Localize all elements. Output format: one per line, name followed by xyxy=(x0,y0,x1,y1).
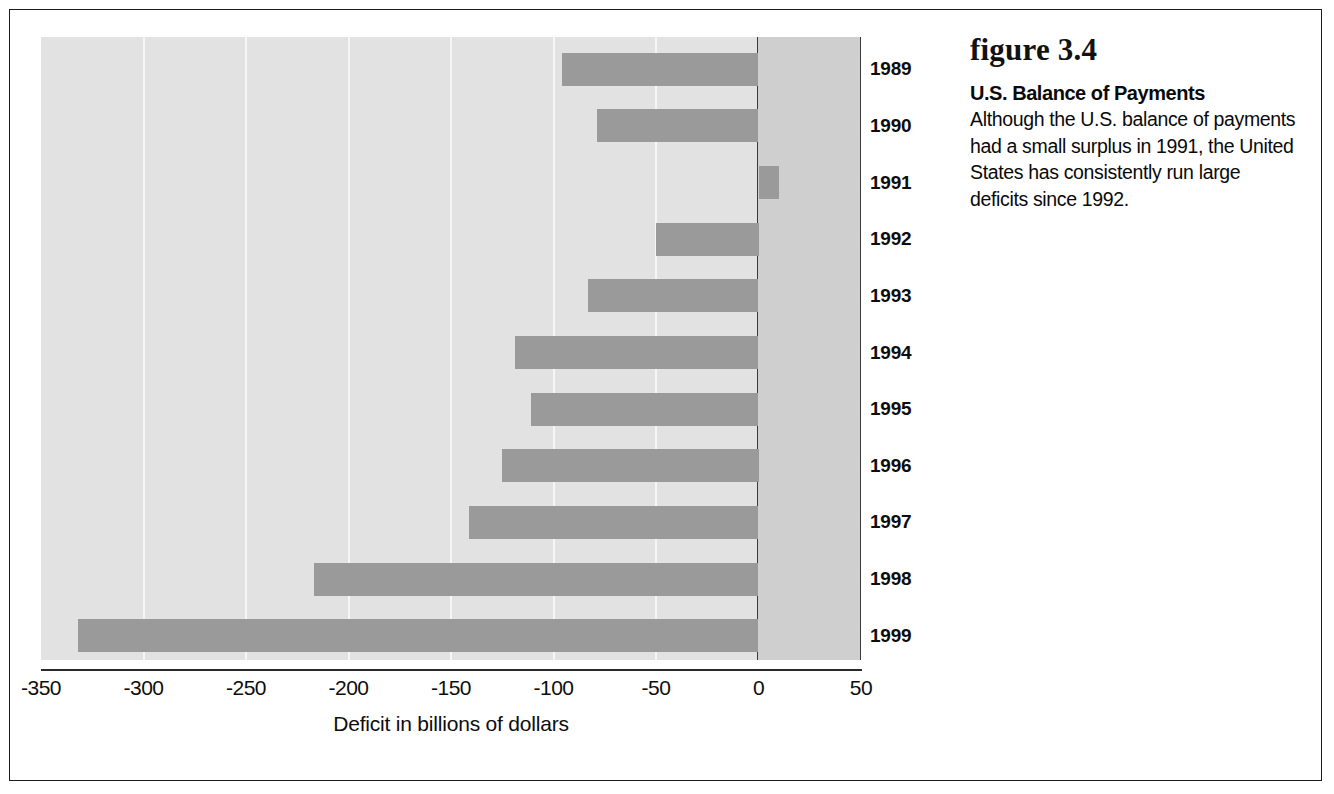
x-axis-title: Deficit in billions of dollars xyxy=(41,712,861,736)
figure-caption-title: U.S. Balance of Payments xyxy=(970,82,1300,105)
bar-shadow xyxy=(307,570,752,603)
x-tick-50: 50 xyxy=(850,676,872,700)
plot-area xyxy=(41,37,861,660)
category-label-1993: 1993 xyxy=(870,285,911,307)
positive-value-zone xyxy=(757,37,861,660)
bar xyxy=(515,336,759,369)
bar-shadow xyxy=(581,286,751,319)
bar-shadow xyxy=(508,343,752,376)
bar xyxy=(469,506,758,539)
category-label-1990: 1990 xyxy=(870,115,911,137)
gridline xyxy=(143,37,145,660)
figure-caption-column: figure 3.4 U.S. Balance of Payments Alth… xyxy=(970,32,1300,212)
bar xyxy=(588,279,758,312)
x-tick--200: -200 xyxy=(328,676,368,700)
bar xyxy=(759,166,780,199)
x-tick--350: -350 xyxy=(21,676,61,700)
bar-shadow xyxy=(590,116,752,149)
category-label-1995: 1995 xyxy=(870,398,911,420)
bar xyxy=(562,53,759,86)
bar-shadow xyxy=(495,456,751,489)
chart-figure: 1989199019911992199319941995199619971998… xyxy=(10,10,910,782)
x-tick--150: -150 xyxy=(431,676,471,700)
bar xyxy=(597,109,759,142)
gridline xyxy=(245,37,247,660)
bar xyxy=(502,449,758,482)
x-tick-0: 0 xyxy=(753,676,764,700)
bar-shadow xyxy=(649,230,752,263)
bar xyxy=(78,619,759,652)
bar-shadow xyxy=(555,60,752,93)
bar xyxy=(314,563,759,596)
figure-number: figure 3.4 xyxy=(970,32,1300,68)
x-tick--100: -100 xyxy=(533,676,573,700)
bar-shadow xyxy=(462,513,751,546)
category-label-1997: 1997 xyxy=(870,511,911,533)
figure-caption-body: Although the U.S. balance of payments ha… xyxy=(970,106,1300,212)
figure-page-frame: 1989199019911992199319941995199619971998… xyxy=(9,9,1322,781)
category-label-1989: 1989 xyxy=(870,58,911,80)
category-label-1996: 1996 xyxy=(870,455,911,477)
x-axis-line xyxy=(41,669,862,671)
category-label-1998: 1998 xyxy=(870,568,911,590)
category-label-1994: 1994 xyxy=(870,342,911,364)
bar xyxy=(531,393,759,426)
x-tick--300: -300 xyxy=(123,676,163,700)
x-tick--50: -50 xyxy=(642,676,671,700)
bar-shadow xyxy=(71,626,752,659)
category-label-1999: 1999 xyxy=(870,625,911,647)
bar-shadow xyxy=(524,400,752,433)
x-tick--250: -250 xyxy=(226,676,266,700)
category-label-1992: 1992 xyxy=(870,228,911,250)
category-label-1991: 1991 xyxy=(870,172,911,194)
bar xyxy=(656,223,759,256)
